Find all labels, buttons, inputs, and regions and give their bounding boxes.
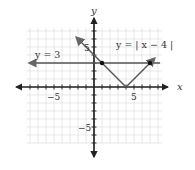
label-y-equals-3: y = 3	[34, 49, 60, 60]
intersection-point	[100, 61, 104, 65]
label-abs-function: y = | x − 4 |	[115, 39, 173, 51]
x-tick-label-5: 5	[131, 92, 137, 102]
y-tick-label-neg5: −5	[78, 123, 92, 133]
x-axis-label: x	[177, 81, 183, 92]
x-tick-label-neg5: −5	[47, 92, 61, 102]
y-tick-label-5: 5	[84, 43, 90, 53]
intersection-point	[148, 61, 152, 65]
graph-canvas: yx−555−5y = 3y = | x − 4 |	[0, 0, 195, 170]
y-axis-label: y	[90, 5, 97, 16]
